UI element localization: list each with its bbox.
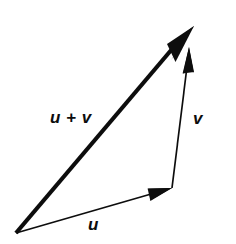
label-u: u xyxy=(88,215,99,234)
vector-addition-diagram: u + v v u xyxy=(0,0,236,244)
label-v: v xyxy=(193,109,204,128)
label-u-plus-v: u + v xyxy=(50,108,93,127)
vector-diagram-canvas: u + v v u xyxy=(0,0,236,244)
